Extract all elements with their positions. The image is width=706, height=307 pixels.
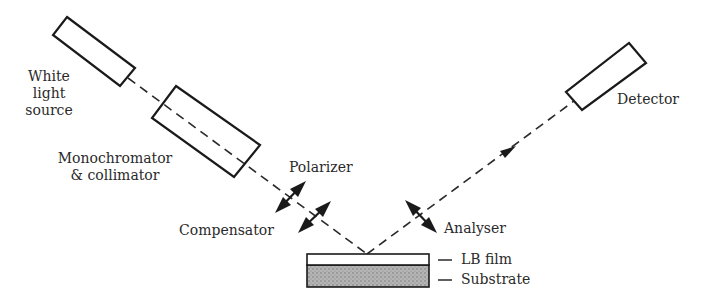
polarizer-double-arrow-icon (275, 181, 306, 213)
compensator-double-arrow-icon (298, 201, 331, 233)
lb-film (307, 254, 429, 265)
monochromator-label: Monochromator & collimator (40, 150, 190, 184)
lb-film-label: LB film (461, 251, 512, 268)
compensator-label: Compensator (179, 222, 274, 239)
beam-direction-arrow-icon (500, 146, 516, 158)
light-source-label-line-3: source (20, 102, 78, 119)
polarizer-label: Polarizer (289, 159, 353, 176)
light-source-label-line-2: light (20, 85, 78, 102)
ellipsometer-diagram: White light source Monochromator & colli… (0, 0, 706, 307)
analyser-label: Analyser (444, 220, 506, 237)
light-source-label: White light source (20, 68, 78, 119)
substrate-label: Substrate (461, 271, 530, 288)
monochromator-label-line-1: Monochromator (40, 150, 190, 167)
detector-label: Detector (617, 91, 679, 108)
light-source-label-line-1: White (20, 68, 78, 85)
substrate (307, 265, 429, 287)
monochromator-label-line-2: & collimator (40, 167, 190, 184)
